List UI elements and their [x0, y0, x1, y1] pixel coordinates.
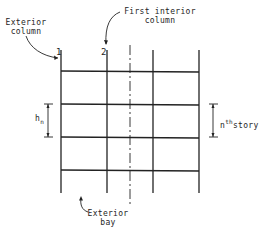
beam-line: [61, 170, 199, 171]
story-height-label: hn: [35, 114, 44, 126]
exterior-column-label: Exterior column: [4, 18, 48, 36]
exterior-bay-label-line1: Exterior: [86, 209, 130, 218]
exterior-column-label-line1: Exterior: [4, 18, 48, 27]
exterior-bay-label-line2: bay: [86, 218, 130, 227]
nth-story-label: nthstory: [220, 117, 259, 130]
leader-exterior-column: [26, 36, 58, 58]
nth-story-word: story: [233, 121, 259, 130]
first-interior-column-label-line2: column: [118, 16, 202, 25]
column-number-2: 2: [101, 48, 106, 57]
exterior-column-label-line2: column: [4, 27, 48, 36]
story-height-subscript: n: [40, 118, 44, 125]
first-interior-column-label-line1: First interior: [118, 7, 202, 16]
nth-story-superscript: th: [225, 118, 233, 125]
exterior-bay-label: Exterior bay: [86, 209, 130, 227]
column-number-1: 1: [56, 48, 61, 57]
first-interior-column-label: First interior column: [118, 7, 202, 25]
